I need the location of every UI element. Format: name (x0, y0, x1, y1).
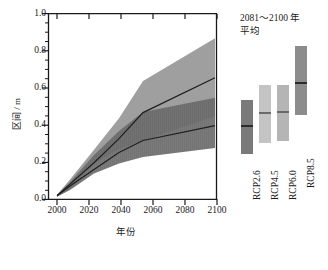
legend-bar-median-rcp26 (241, 125, 253, 127)
legend-bar-label-rcp26: RCP2.6 (252, 170, 262, 200)
legend-bar-rcp60 (277, 85, 289, 141)
legend-bar-label-rcp60: RCP6.0 (288, 170, 298, 200)
legend-bar-median-rcp60 (277, 111, 289, 113)
legend-bar-label-rcp85: RCP8.5 (306, 158, 316, 188)
legend-title-line1: 2081～2100 年 (240, 12, 300, 25)
legend-bar-label-rcp45: RCP4.5 (270, 170, 280, 200)
x-top-ticks (57, 14, 217, 19)
legend-bar-median-rcp45 (259, 112, 271, 114)
legend-bar-median-rcp85 (295, 82, 307, 84)
figure-root: 区间 / m 1.0 0.8 0.6 0.4 0.2 0.0 2000 2020… (0, 0, 328, 270)
legend-title-line2: 平均 (240, 25, 260, 38)
legend-bar-rcp85 (295, 46, 307, 115)
